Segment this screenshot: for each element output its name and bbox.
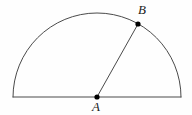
point-b-label: B <box>138 3 146 16</box>
semicircle-diagram-svg <box>0 0 192 115</box>
geometry-figure: A B <box>0 0 192 115</box>
point-a-label: A <box>92 100 100 113</box>
point-b-marker <box>135 21 140 26</box>
